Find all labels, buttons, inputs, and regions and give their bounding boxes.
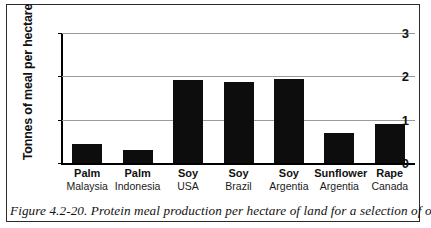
plot-area: 0123 [62, 33, 415, 163]
x-label-crop: Rape [365, 166, 415, 180]
y-tick-mark-0 [58, 163, 62, 164]
x-label-region: Canada [365, 180, 415, 193]
y-axis-line [61, 33, 63, 164]
bar-soy-argentia [274, 79, 304, 164]
x-label-region: Indonesia [112, 180, 162, 193]
bar-palm-malaysia [72, 144, 102, 164]
y-tick-label-2: 2 [402, 70, 409, 83]
gridline-2 [62, 76, 415, 77]
bar-rape-canada [375, 124, 405, 163]
x-label-region: Argentia [314, 180, 364, 193]
x-label-crop: Palm [62, 166, 112, 180]
x-label-crop: Soy [213, 166, 263, 180]
x-label-soy-usa: SoyUSA [163, 166, 213, 194]
x-label-sunflower-argentia: SunflowerArgentia [314, 166, 364, 194]
x-label-region: Brazil [213, 180, 263, 193]
x-label-crop: Palm [112, 166, 162, 180]
bar-soy-usa [173, 80, 203, 163]
x-label-rape-canada: RapeCanada [365, 166, 415, 194]
bar-palm-indonesia [123, 150, 153, 163]
gridline-3 [62, 33, 415, 34]
x-label-crop: Soy [264, 166, 314, 180]
x-label-soy-brazil: SoyBrazil [213, 166, 263, 194]
x-label-crop: Soy [163, 166, 213, 180]
x-axis-line [61, 163, 415, 165]
figure-caption: Figure 4.2-20. Protein meal production p… [10, 203, 422, 219]
x-label-region: Argentia [264, 180, 314, 193]
y-axis-title: Tonnes of meal per hectare [21, 2, 35, 162]
y-tick-mark-3 [58, 33, 62, 34]
y-tick-mark-1 [58, 120, 62, 121]
x-label-palm-indonesia: PalmIndonesia [112, 166, 162, 194]
bar-sunflower-argentia [324, 133, 354, 163]
x-label-region: Malaysia [62, 180, 112, 193]
y-tick-label-3: 3 [402, 27, 409, 40]
x-label-soy-argentia: SoyArgentia [264, 166, 314, 194]
y-tick-mark-2 [58, 76, 62, 77]
bar-soy-brazil [224, 82, 254, 163]
x-label-region: USA [163, 180, 213, 193]
x-label-palm-malaysia: PalmMalaysia [62, 166, 112, 194]
x-label-crop: Sunflower [314, 166, 364, 180]
x-axis-label-group: PalmMalaysiaPalmIndonesiaSoyUSASoyBrazil… [62, 166, 415, 200]
figure-container: Tonnes of meal per hectare 0123 PalmMala… [0, 0, 431, 228]
